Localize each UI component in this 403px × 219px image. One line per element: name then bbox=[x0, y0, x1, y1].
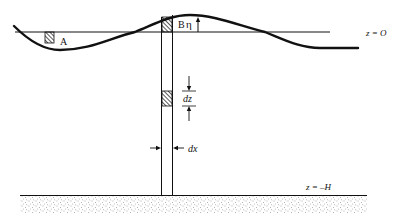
label-eta: η bbox=[186, 18, 192, 30]
label-a: A bbox=[60, 36, 68, 47]
dz-element bbox=[162, 91, 172, 106]
block-a bbox=[45, 32, 54, 43]
label-b: B bbox=[178, 19, 185, 30]
label-bottom: z = –H bbox=[305, 182, 332, 192]
label-dz: dz bbox=[183, 93, 192, 104]
dx-arrowhead-left-icon bbox=[173, 146, 178, 150]
dx-arrowhead-right-icon bbox=[156, 146, 161, 150]
dz-arrowhead-up-icon bbox=[187, 106, 191, 111]
seabed bbox=[20, 196, 367, 213]
label-dx: dx bbox=[188, 143, 198, 154]
block-b bbox=[162, 17, 172, 32]
label-surface: z = O bbox=[365, 28, 387, 38]
eta-arrowhead-icon bbox=[196, 17, 200, 22]
dz-arrowhead-down-icon bbox=[187, 86, 191, 91]
wave-diagram: A B η z = O dz dx z = –H bbox=[0, 0, 403, 219]
